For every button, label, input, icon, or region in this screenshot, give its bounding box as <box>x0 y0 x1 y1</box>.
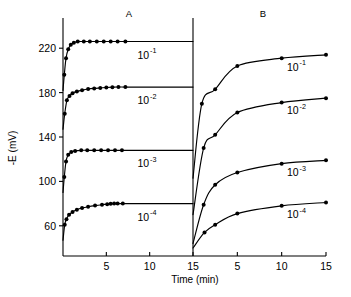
labels-layer: 60100140180220510155101510-110-210-310-4… <box>7 8 332 285</box>
panel-b-point-10-2-2 <box>213 133 217 137</box>
panel-a-conc-label-10-2: 10-2 <box>138 92 157 107</box>
panel-a-point-10-4-2 <box>67 213 71 217</box>
panel-a-point-10-2-11 <box>116 85 120 89</box>
panel-b-conc-label-10-3: 10-3 <box>287 164 306 179</box>
panel-a-point-10-4-11 <box>112 202 116 206</box>
panel-b-curve-10-2 <box>193 98 326 215</box>
panel-a-point-10-4-0 <box>63 223 67 227</box>
x-tick-label-a-10: 10 <box>144 260 156 272</box>
panel-b-conc-label-10-1: 10-1 <box>287 58 306 73</box>
y-tick-label-100: 100 <box>38 175 56 187</box>
conc-exp-b-10-2: -2 <box>299 102 305 111</box>
panel-a-point-10-2-4 <box>75 89 79 93</box>
conc-exp-b-10-1: -1 <box>299 58 305 67</box>
panel-a-point-10-1-11 <box>116 40 120 44</box>
panel-label-b: B <box>260 8 266 19</box>
panel-a-point-10-1-4 <box>72 41 76 45</box>
panel-a-point-10-1-2 <box>66 47 70 51</box>
panel-a-point-10-3-5 <box>79 148 83 152</box>
panel-a-point-10-1-6 <box>82 40 86 44</box>
conc-base-10-4: 10 <box>138 211 150 223</box>
panel-a-point-10-2-10 <box>110 85 114 89</box>
panel-a-point-10-3-9 <box>106 148 110 152</box>
panel-a-point-10-2-8 <box>98 86 102 90</box>
x-tick-label-b-10: 10 <box>276 260 288 272</box>
panel-a-point-10-1-1 <box>64 56 68 60</box>
panel-b-point-10-1-2 <box>213 87 217 91</box>
conc-exp-b-10-4: -4 <box>299 206 305 215</box>
x-tick-label-b-5: 5 <box>234 260 240 272</box>
panel-a-point-10-3-0 <box>62 175 66 179</box>
panel-a-point-10-4-6 <box>86 205 90 209</box>
panel-a-point-10-3-1 <box>64 159 68 163</box>
panel-a-point-10-1-0 <box>62 73 66 77</box>
panel-a-point-10-2-5 <box>80 88 84 92</box>
panel-a-curve-10-4 <box>63 204 123 241</box>
panel-b-point-10-1-1 <box>200 102 204 106</box>
panel-b-point-10-4-3 <box>235 212 239 216</box>
panel-a-point-10-1-10 <box>109 40 113 44</box>
panel-a-point-10-3-8 <box>99 148 103 152</box>
x-tick-label-b-15: 15 <box>320 260 332 272</box>
panel-b-point-10-3-3 <box>235 171 239 175</box>
panel-a-point-10-3-2 <box>66 153 70 157</box>
panel-a-point-10-4-1 <box>64 217 68 221</box>
panel-a-point-10-3-7 <box>92 148 96 152</box>
panel-a-conc-label-10-1: 10-1 <box>138 46 157 61</box>
panel-a-point-10-2-0 <box>63 112 67 116</box>
panel-b-point-10-2-1 <box>202 146 206 150</box>
panel-a-point-10-4-8 <box>100 203 104 207</box>
panel-b-curve-10-4 <box>193 202 326 248</box>
panel-a-point-10-4-12 <box>116 202 120 206</box>
panel-b-curve-10-3 <box>193 160 326 243</box>
panel-a-point-10-3-10 <box>113 148 117 152</box>
panel-a-point-10-1-9 <box>102 40 106 44</box>
conc-base-b-10-1: 10 <box>287 61 299 73</box>
panel-a-point-10-3-6 <box>85 148 89 152</box>
panel-a-point-10-4-7 <box>93 204 97 208</box>
x-tick-label-a-15: 15 <box>187 260 199 272</box>
panel-b-point-10-1-3 <box>235 64 239 68</box>
y-tick-label-180: 180 <box>38 87 56 99</box>
conc-exp-10-3: -3 <box>150 155 156 164</box>
panel-b-point-10-3-2 <box>213 183 217 187</box>
panel-label-a: A <box>126 8 133 19</box>
conc-base-b-10-3: 10 <box>287 166 299 178</box>
panel-a-point-10-3-3 <box>69 150 73 154</box>
panel-a-curve-10-1 <box>63 41 125 90</box>
panel-a-conc-label-10-4: 10-4 <box>138 208 157 223</box>
panel-b-point-10-1-5 <box>324 53 328 57</box>
panel-b-conc-label-10-2: 10-2 <box>287 102 306 117</box>
conc-base-10-2: 10 <box>138 94 150 106</box>
x-tick-label-a-5: 5 <box>103 260 109 272</box>
panel-b-point-10-4-4 <box>280 204 284 208</box>
conc-base-10-3: 10 <box>138 157 150 169</box>
panel-b-point-10-4-5 <box>324 200 328 204</box>
y-tick-label-60: 60 <box>44 220 56 232</box>
panel-a-point-10-2-7 <box>92 86 96 90</box>
y-tick-label-140: 140 <box>38 131 56 143</box>
y-tick-label-220: 220 <box>38 42 56 54</box>
panel-a-point-10-2-9 <box>104 85 108 89</box>
panel-a-point-10-3-11 <box>120 148 124 152</box>
conc-base-b-10-2: 10 <box>287 104 299 116</box>
panel-a-point-10-4-10 <box>109 202 113 206</box>
conc-exp-b-10-3: -3 <box>299 164 305 173</box>
panel-a-point-10-4-9 <box>105 202 109 206</box>
panel-a-point-10-1-5 <box>76 40 80 44</box>
panel-a-point-10-1-7 <box>88 40 92 44</box>
x-axis-title: Time (min) <box>171 274 218 285</box>
panel-b-point-10-1-4 <box>280 56 284 60</box>
y-axis-title: -E (mV) <box>7 131 18 165</box>
panel-b-point-10-2-5 <box>324 96 328 100</box>
panel-b-point-10-2-3 <box>235 111 239 115</box>
panel-b-point-10-4-1 <box>203 230 207 234</box>
panel-a-point-10-2-6 <box>86 87 90 91</box>
conc-exp-10-1: -1 <box>150 46 156 55</box>
panel-b-point-10-2-4 <box>280 101 284 105</box>
conc-base-10-1: 10 <box>138 49 150 61</box>
panel-a-conc-label-10-3: 10-3 <box>138 155 157 170</box>
panel-a-point-10-4-3 <box>71 210 75 214</box>
panel-a-point-10-2-3 <box>71 91 75 95</box>
panel-a-point-10-2-12 <box>123 85 127 89</box>
